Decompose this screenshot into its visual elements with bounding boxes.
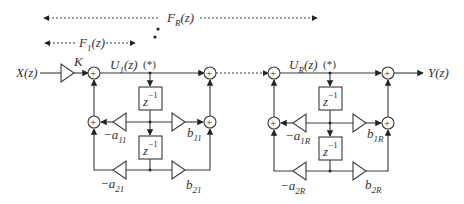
sectionR-b2-label: b2R: [365, 177, 382, 195]
sectionR-a2-label: −a2R: [280, 178, 306, 196]
gain-k-amplifier: [61, 64, 74, 82]
svg-text:+: +: [270, 67, 276, 79]
gain-label: K: [73, 54, 84, 69]
section1-b2-label: b21: [186, 177, 202, 195]
svg-text:+: +: [90, 67, 96, 79]
section1-coef-b1: [172, 113, 185, 131]
sectionR-a1-label: −a1R: [285, 128, 311, 146]
section1-a2-label: −a21: [100, 176, 124, 194]
cascade-filter-diagram: FR(z) F1(z) X(z) K + U1(z) (*) z−1: [0, 0, 464, 204]
svg-text:+: +: [384, 117, 390, 129]
svg-text:+: +: [384, 67, 390, 79]
section-r: + UR(z) (*) z−1 −a1R b1R + + z−1 −a2R b2: [268, 57, 394, 196]
sectionR-coef-b1: [353, 114, 366, 132]
section1-coef-b2: [172, 161, 185, 179]
section1-b1-label: b11: [187, 125, 202, 143]
section1-marker: (*): [143, 58, 156, 71]
input-label: X(z): [15, 65, 38, 80]
sectionR-state-label: UR(z): [289, 57, 318, 75]
svg-text:+: +: [90, 116, 96, 128]
svg-text:+: +: [206, 116, 212, 128]
sectionR-marker: (*): [323, 58, 336, 71]
sectionR-b1-label: b1R: [367, 126, 384, 144]
ellipsis-dots: [153, 27, 159, 38]
output-label: Y(z): [428, 65, 449, 80]
first-span-label: F1(z): [78, 35, 105, 53]
first-span-indicator: F1(z): [45, 35, 135, 53]
section1-state-label: U1(z): [110, 57, 138, 75]
section-1: + U1(z) (*) z−1 −a11 b11 + + z−1: [88, 57, 216, 195]
section1-a1-label: −a11: [103, 127, 127, 145]
svg-text:+: +: [270, 117, 276, 129]
overall-span-indicator: FR(z): [44, 10, 317, 28]
svg-text:+: +: [206, 67, 212, 79]
overall-span-label: FR(z): [166, 10, 194, 28]
